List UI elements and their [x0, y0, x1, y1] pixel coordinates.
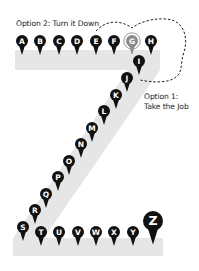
pin-letter: Z	[148, 213, 157, 228]
z-band-shape	[13, 50, 163, 256]
pin-letter: F	[111, 37, 116, 46]
pin-letter: T	[38, 228, 44, 237]
pin-letter: G	[129, 37, 135, 46]
pin-letter: J	[125, 74, 129, 83]
pin-letter: R	[32, 206, 38, 215]
pin-letter: C	[56, 37, 62, 46]
pin-letter: H	[148, 37, 154, 46]
pin-letter: W	[92, 228, 101, 237]
pin-letter: I	[138, 57, 141, 66]
pin-letter: Q	[43, 190, 49, 199]
pin-letter: E	[93, 37, 98, 46]
pin-letter: X	[111, 228, 117, 237]
pin-letter: P	[55, 173, 61, 182]
option1-label-line2: Take the Job	[144, 102, 189, 112]
pin-letter: L	[102, 107, 107, 116]
pin-letter: O	[66, 157, 72, 166]
pin-letter: U	[56, 228, 62, 237]
pin-letter: V	[75, 228, 81, 237]
option1-label-line1: Option 1:	[144, 92, 178, 102]
pin-letter: Y	[129, 228, 136, 237]
z-diagram: ABCDEFGHIJKLMNOPQRSTUVWXYZ	[0, 0, 199, 271]
pin-letter: A	[19, 37, 25, 46]
pin-letter: M	[88, 124, 95, 133]
pin-letter: D	[74, 37, 80, 46]
pin-letter: B	[37, 37, 43, 46]
option2-label: Option 2: Turn it Down	[16, 19, 99, 29]
pin-letter: S	[20, 223, 25, 232]
pin-letter: N	[78, 140, 84, 149]
